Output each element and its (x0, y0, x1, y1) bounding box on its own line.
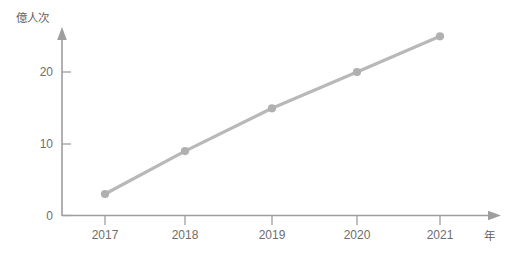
y-axis-tick-labels: 20 10 0 (40, 65, 54, 223)
data-point-2018[interactable] (181, 147, 189, 155)
chart-canvas: 億人次 20 10 0 (0, 0, 519, 254)
x-axis-ticks (105, 216, 440, 226)
x-tick-label-2018: 2018 (172, 228, 199, 242)
x-tick-label-2017: 2017 (92, 228, 119, 242)
y-tick-label-20: 20 (40, 65, 54, 79)
y-axis-title: 億人次 (16, 11, 50, 25)
data-point-2019[interactable] (268, 104, 276, 112)
x-axis-arrow-icon (488, 211, 501, 221)
y-axis-ticks (62, 72, 71, 216)
x-tick-label-2019: 2019 (259, 228, 286, 242)
series-line-billion-person-trips (105, 36, 440, 194)
x-axis (62, 211, 501, 221)
y-tick-label-10: 10 (40, 137, 54, 151)
x-axis-title: 年 (484, 229, 495, 243)
x-tick-label-2021: 2021 (427, 228, 454, 242)
y-axis-arrow-icon (57, 27, 67, 40)
x-axis-tick-labels: 2017 2018 2019 2020 2021 (92, 228, 454, 242)
y-axis (57, 27, 67, 216)
y-tick-label-0: 0 (46, 209, 53, 223)
data-point-2017[interactable] (101, 190, 109, 198)
data-point-2020[interactable] (353, 68, 361, 76)
line-chart-figure: 億人次 20 10 0 (0, 0, 519, 254)
x-tick-label-2020: 2020 (344, 228, 371, 242)
data-point-2021[interactable] (436, 32, 444, 40)
